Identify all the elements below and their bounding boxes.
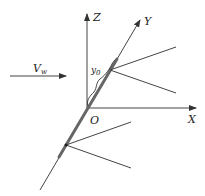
- y0-label: y0: [90, 65, 101, 77]
- wind-velocity-label: Vw: [33, 62, 47, 76]
- x-axis-label: X: [187, 113, 197, 126]
- origin-label: O: [90, 114, 99, 127]
- y-axis-label: Y: [144, 15, 153, 28]
- z-axis-label: Z: [92, 11, 101, 24]
- diagram-canvas: Z Y X O Vw y0: [0, 0, 205, 196]
